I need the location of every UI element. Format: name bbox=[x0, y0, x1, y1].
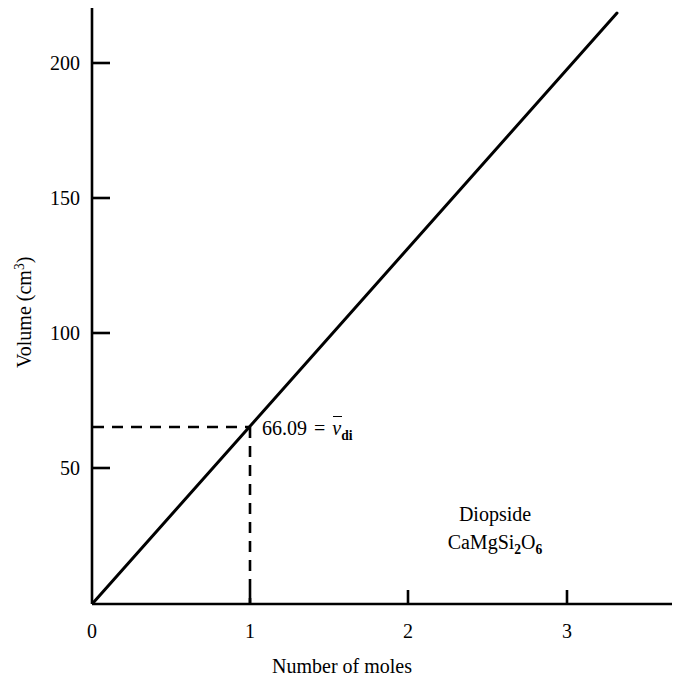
y-axis-title-main: Volume (cm bbox=[13, 270, 35, 368]
x-axis-title: Number of moles bbox=[0, 655, 684, 678]
y-axis-title-exponent: 3 bbox=[12, 263, 27, 270]
x-tick-label-3: 3 bbox=[547, 621, 587, 641]
molar-volume-annotation: 66.09=vdi bbox=[262, 417, 353, 444]
x-tick-label-1: 1 bbox=[230, 621, 270, 641]
sample-name-label: Diopside bbox=[395, 503, 595, 526]
formula-part-o: O bbox=[521, 531, 535, 553]
y-axis-title: Volume (cm3) bbox=[12, 182, 37, 442]
x-tick-label-0: 0 bbox=[72, 621, 112, 641]
annotation-equals: = bbox=[307, 417, 332, 439]
chart-figure: 200 150 100 50 0 1 2 3 Volume (cm3) Numb… bbox=[0, 0, 684, 694]
y-axis-title-end: ) bbox=[13, 257, 35, 264]
chemical-formula-label: CaMgSi2O6 bbox=[395, 531, 595, 558]
y-axis-title-wrap: Volume (cm3) bbox=[0, 0, 40, 694]
annotation-symbol-v: v bbox=[332, 417, 341, 440]
chart-canvas bbox=[0, 0, 684, 694]
annotation-value: 66.09 bbox=[262, 417, 307, 439]
formula-part-camgsi: CaMgSi bbox=[448, 531, 515, 553]
annotation-subscript-di: di bbox=[341, 428, 352, 443]
x-tick-label-2: 2 bbox=[388, 621, 428, 641]
formula-subscript-6: 6 bbox=[536, 542, 543, 557]
